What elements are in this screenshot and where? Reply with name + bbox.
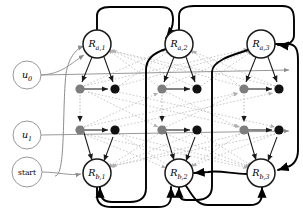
variable-dot-d11[interactable] xyxy=(75,84,84,93)
edge-u0-Ra1 xyxy=(41,55,84,75)
diagram-svg: u0u1startRa,1Ra,2Ra,3Rb,1Rb,2Rb,3 xyxy=(0,0,303,216)
input-edges xyxy=(41,55,289,175)
state-node-Rb2[interactable]: Rb,2 xyxy=(165,159,193,187)
node-label: start xyxy=(18,168,36,177)
dots-layer xyxy=(75,84,283,134)
edge-Ra2-to-Ra3 xyxy=(179,6,294,45)
variable-dot-d32[interactable] xyxy=(274,84,283,93)
edge-Ra3-to-Rb3 xyxy=(275,44,298,170)
state-node-Ra2[interactable]: Ra,2 xyxy=(165,30,193,58)
variable-dot-d13[interactable] xyxy=(75,125,84,134)
state-node-Rb1[interactable]: Rb,1 xyxy=(83,159,111,187)
state-node-Ra1[interactable]: Ra,1 xyxy=(83,30,111,58)
state-node-Ra3[interactable]: Ra,3 xyxy=(247,30,275,58)
variable-dot-d31[interactable] xyxy=(239,84,248,93)
edge-start-Rb1 xyxy=(41,172,81,175)
input-node-u0[interactable]: u0 xyxy=(13,61,41,89)
variable-dot-d21[interactable] xyxy=(157,84,166,93)
variable-dot-d34[interactable] xyxy=(274,125,283,134)
input-node-start[interactable]: start xyxy=(12,157,42,187)
variable-dot-d12[interactable] xyxy=(110,84,119,93)
edge-Rb2-to-Rb3 xyxy=(186,186,262,205)
variable-dot-d24[interactable] xyxy=(192,125,201,134)
input-node-u1[interactable]: u1 xyxy=(13,121,41,149)
edge-u0-fanout xyxy=(41,70,289,75)
variable-dot-d22[interactable] xyxy=(192,84,201,93)
variable-dot-d14[interactable] xyxy=(110,125,119,134)
dotted-edge-mesh xyxy=(84,49,275,168)
diagram-canvas: u0u1startRa,1Ra,2Ra,3Rb,1Rb,2Rb,3 xyxy=(0,0,303,216)
state-node-Rb3[interactable]: Rb,3 xyxy=(247,159,275,187)
variable-dot-d23[interactable] xyxy=(157,125,166,134)
edge-Rb3-to-Rb2 xyxy=(194,171,247,174)
edge-Ra1-to-Ra2 xyxy=(97,7,173,38)
variable-dot-d33[interactable] xyxy=(239,125,248,134)
edge-Rb1-to-Rb2 xyxy=(97,187,171,207)
